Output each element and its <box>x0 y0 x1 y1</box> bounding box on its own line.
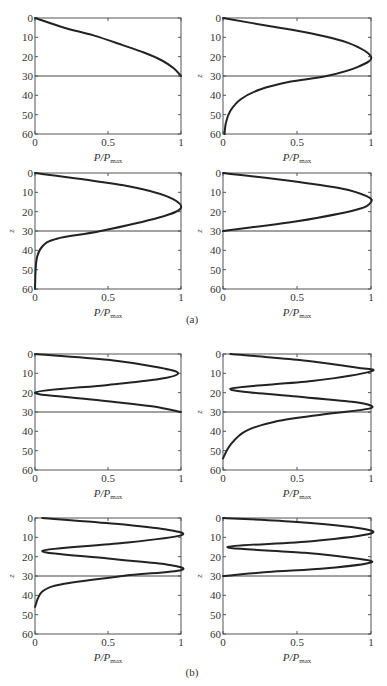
y-tick-label: 10 <box>210 31 222 43</box>
y-axis-label: z <box>194 574 204 579</box>
x-tick-label: 0 <box>32 136 38 148</box>
y-tick-label: 40 <box>22 89 34 101</box>
x-tick-label: 0.5 <box>101 291 115 303</box>
y-tick-label: 40 <box>210 425 222 437</box>
x-tick-label: 0.5 <box>290 136 304 148</box>
x-axis-label: P/Pmax <box>93 651 123 665</box>
y-tick-label: 0 <box>28 512 34 524</box>
y-tick-label: 0 <box>28 348 34 360</box>
y-tick-label: 20 <box>210 387 222 399</box>
x-tick-label: 1 <box>368 136 374 148</box>
y-tick-label: 50 <box>210 609 222 621</box>
x-axis-label: P/Pmax <box>93 151 123 165</box>
x-axis-label-sub: max <box>299 657 312 665</box>
x-tick-label: 0.5 <box>101 636 115 648</box>
x-tick-label: 1 <box>368 472 374 484</box>
x-tick-label: 1 <box>178 472 184 484</box>
x-axis-label-sub: max <box>299 312 312 320</box>
y-axis-label: z <box>194 229 204 234</box>
caption-b: (b) <box>186 666 199 679</box>
chart-panel-b-4: 010203040506000.51P/Pmaxz <box>194 512 374 665</box>
y-tick-label: 30 <box>22 406 34 418</box>
power-profile-curve <box>35 18 181 76</box>
y-tick-label: 40 <box>210 89 222 101</box>
x-axis-label-sub: max <box>299 493 312 501</box>
y-tick-label: 30 <box>210 225 222 237</box>
x-tick-label: 0 <box>220 636 226 648</box>
y-tick-label: 40 <box>22 244 34 256</box>
y-tick-label: 30 <box>210 70 222 82</box>
y-tick-label: 0 <box>28 167 34 179</box>
x-tick-label: 0.5 <box>290 472 304 484</box>
y-tick-label: 20 <box>22 206 34 218</box>
x-axis-label-sub: max <box>299 157 312 165</box>
x-axis-label: P/Pmax <box>282 306 312 320</box>
y-tick-label: 0 <box>28 12 34 24</box>
x-tick-label: 0 <box>220 472 226 484</box>
y-tick-label: 50 <box>22 264 34 276</box>
x-axis-label: P/Pmax <box>282 151 312 165</box>
y-tick-label: 30 <box>210 406 222 418</box>
chart-panel-a-2: 010203040506000.51P/Pmaxz <box>194 12 374 165</box>
y-tick-label: 10 <box>210 186 222 198</box>
y-axis-label: z <box>6 229 16 234</box>
power-profile-curve <box>223 173 372 231</box>
x-tick-label: 0 <box>220 291 226 303</box>
y-tick-label: 50 <box>210 264 222 276</box>
x-tick-label: 1 <box>178 291 184 303</box>
y-tick-label: 10 <box>22 367 34 379</box>
x-axis-label-sub: max <box>110 657 123 665</box>
x-axis-label: P/Pmax <box>93 487 123 501</box>
y-tick-label: 0 <box>216 167 222 179</box>
y-tick-label: 50 <box>210 109 222 121</box>
x-tick-label: 1 <box>368 636 374 648</box>
y-tick-label: 10 <box>22 186 34 198</box>
chart-panel-b-2: 010203040506000.51P/Pmaxz <box>194 348 374 501</box>
chart-panel-a-3: 010203040506000.51P/Pmaxz <box>6 167 184 320</box>
x-axis-label: P/Pmax <box>93 306 123 320</box>
x-tick-label: 0 <box>220 136 226 148</box>
x-tick-label: 0 <box>32 636 38 648</box>
x-tick-label: 0.5 <box>101 472 115 484</box>
y-tick-label: 40 <box>22 425 34 437</box>
y-tick-label: 30 <box>210 570 222 582</box>
y-tick-label: 20 <box>210 551 222 563</box>
y-tick-label: 30 <box>22 570 34 582</box>
y-tick-label: 10 <box>22 531 34 543</box>
y-tick-label: 10 <box>210 531 222 543</box>
y-tick-label: 40 <box>22 589 34 601</box>
y-tick-label: 0 <box>216 348 222 360</box>
figure-canvas: 010203040506000.51P/Pmax010203040506000.… <box>0 0 387 686</box>
caption-a: (a) <box>186 313 199 326</box>
y-tick-label: 20 <box>210 206 222 218</box>
y-axis-label: z <box>194 74 204 79</box>
y-tick-label: 30 <box>22 225 34 237</box>
y-tick-label: 40 <box>210 589 222 601</box>
y-axis-label: z <box>194 410 204 415</box>
x-axis-label-sub: max <box>110 493 123 501</box>
x-tick-label: 0 <box>32 291 38 303</box>
y-tick-label: 50 <box>210 445 222 457</box>
chart-panel-b-3: 010203040506000.51P/Pmaxz <box>6 512 184 665</box>
x-tick-label: 1 <box>368 291 374 303</box>
chart-panel-a-1: 010203040506000.51P/Pmax <box>22 12 184 165</box>
y-tick-label: 20 <box>210 51 222 63</box>
x-tick-label: 1 <box>178 136 184 148</box>
y-tick-label: 20 <box>22 51 34 63</box>
power-profile-curve <box>35 518 184 607</box>
x-axis-label-sub: max <box>110 312 123 320</box>
y-tick-label: 50 <box>22 445 34 457</box>
chart-panel-a-4: 010203040506000.51P/Pmaxz <box>194 167 374 320</box>
y-tick-label: 20 <box>22 551 34 563</box>
x-tick-label: 0.5 <box>290 636 304 648</box>
x-tick-label: 0 <box>32 472 38 484</box>
power-profile-curve <box>35 354 181 412</box>
y-tick-label: 50 <box>22 609 34 621</box>
y-tick-label: 50 <box>22 109 34 121</box>
power-profile-curve <box>223 518 374 576</box>
y-tick-label: 30 <box>22 70 34 82</box>
y-tick-label: 0 <box>216 12 222 24</box>
x-tick-label: 0.5 <box>290 291 304 303</box>
y-tick-label: 0 <box>216 512 222 524</box>
y-tick-label: 20 <box>22 387 34 399</box>
